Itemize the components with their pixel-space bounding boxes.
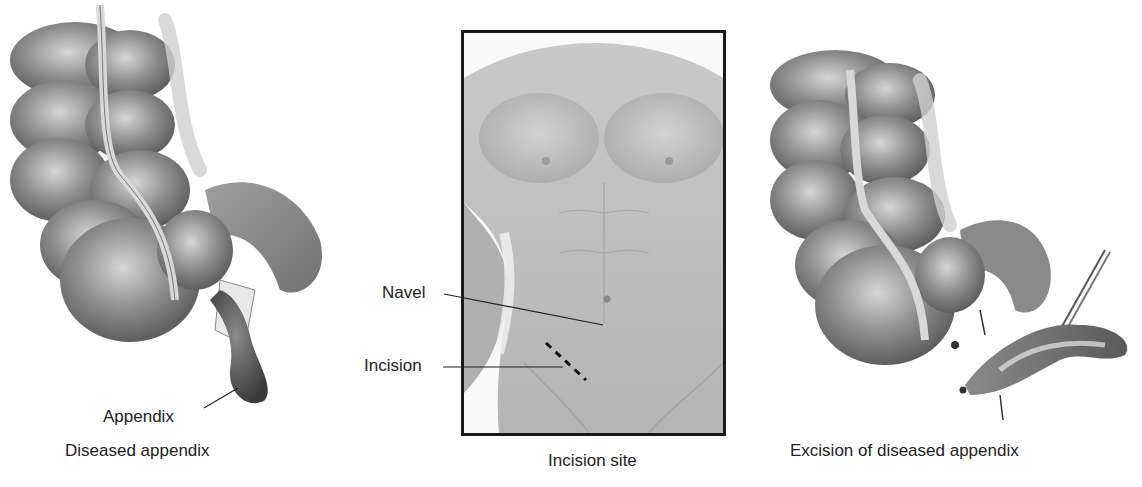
appendix-leader-line (0, 0, 340, 420)
incision-site-caption: Incision site (548, 451, 637, 471)
excision-caption: Excision of diseased appendix (790, 441, 1019, 461)
incision-site-frame (461, 30, 726, 436)
torso-illustration (464, 33, 723, 433)
diseased-appendix-panel: Appendix Diseased appendix (0, 0, 340, 487)
navel-marker (604, 296, 611, 303)
colon-illustration-excision (760, 0, 1142, 430)
incision-label: Incision (364, 356, 422, 376)
diseased-appendix-caption: Diseased appendix (65, 441, 210, 461)
navel-label: Navel (382, 283, 425, 303)
excision-panel: Excision of diseased appendix (760, 0, 1142, 487)
appendix-label: Appendix (103, 407, 174, 427)
